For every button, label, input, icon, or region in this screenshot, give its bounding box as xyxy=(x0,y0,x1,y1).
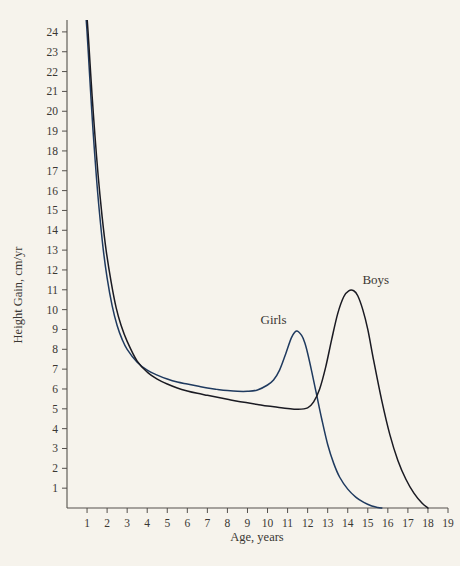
y-tick-label: 11 xyxy=(47,284,58,296)
x-tick-label: 9 xyxy=(245,517,251,529)
y-tick-label: 17 xyxy=(47,165,59,177)
y-tick-label: 24 xyxy=(47,26,59,38)
y-tick-label: 8 xyxy=(52,343,58,355)
x-tick-label: 17 xyxy=(402,517,414,529)
x-tick-label: 8 xyxy=(225,517,231,529)
x-tick-label: 14 xyxy=(342,517,354,529)
x-tick-label: 16 xyxy=(382,517,394,529)
y-tick-label: 6 xyxy=(52,383,58,395)
y-tick-label: 4 xyxy=(52,423,58,435)
figure-canvas: 123456789101112131415161718192021222324 … xyxy=(0,0,460,566)
y-tick-label: 13 xyxy=(47,244,59,256)
series-label-girls: Girls xyxy=(261,312,287,327)
y-tick-label: 10 xyxy=(47,304,59,316)
y-tick-label: 1 xyxy=(52,482,58,494)
x-tick-label: 12 xyxy=(302,517,314,529)
y-tick-label: 2 xyxy=(52,462,58,474)
x-tick-label: 15 xyxy=(362,517,374,529)
x-tick-label: 11 xyxy=(282,517,293,529)
x-tick-label: 10 xyxy=(262,517,274,529)
x-tick-label: 2 xyxy=(104,517,110,529)
y-tick-label: 14 xyxy=(47,224,59,236)
x-tick-label: 18 xyxy=(422,517,434,529)
height-velocity-chart: 123456789101112131415161718192021222324 … xyxy=(0,0,460,566)
x-tick-label: 19 xyxy=(442,517,454,529)
x-axis-title: Age, years xyxy=(230,530,284,544)
y-tick-label: 12 xyxy=(47,264,59,276)
x-tick-label: 6 xyxy=(184,517,190,529)
y-axis-title: Height Gain, cm/yr xyxy=(11,246,25,344)
y-tick-label: 5 xyxy=(52,403,58,415)
y-tick-label: 21 xyxy=(47,85,59,97)
x-tick-label: 13 xyxy=(322,517,334,529)
x-tick-label: 4 xyxy=(144,517,150,529)
x-tick-label: 5 xyxy=(164,517,170,529)
x-tick-label: 3 xyxy=(124,517,130,529)
y-tick-label: 20 xyxy=(47,105,59,117)
y-tick-label: 18 xyxy=(47,145,59,157)
y-tick-label: 7 xyxy=(52,363,58,375)
y-tick-label: 16 xyxy=(47,185,59,197)
chart-background xyxy=(0,0,460,566)
series-label-boys: Boys xyxy=(362,272,389,287)
y-tick-label: 3 xyxy=(52,442,58,454)
y-tick-label: 19 xyxy=(47,125,59,137)
y-tick-label: 23 xyxy=(47,46,59,58)
y-tick-label: 9 xyxy=(52,323,58,335)
x-tick-label: 1 xyxy=(84,517,90,529)
y-tick-label: 15 xyxy=(47,204,59,216)
y-tick-label: 22 xyxy=(47,66,59,78)
x-tick-label: 7 xyxy=(204,517,210,529)
